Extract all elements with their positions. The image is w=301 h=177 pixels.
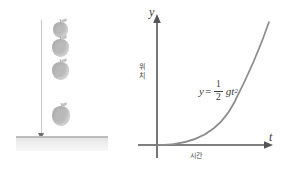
formula-numerator: 1 <box>214 80 223 90</box>
y-axis-arrowhead-icon <box>153 14 161 23</box>
apple-leaf-icon <box>61 35 68 40</box>
apple-leaf-icon <box>60 18 67 23</box>
fall-trajectory-line <box>41 20 42 136</box>
x-axis-label: 시간 <box>190 150 202 160</box>
y-axis-symbol: y <box>149 5 154 20</box>
ground-slab <box>16 138 108 151</box>
apple-icon-2 <box>52 39 69 57</box>
formula-exponent: 2 <box>234 87 238 95</box>
curve-formula-annotation: y = 1 2 gt 2 <box>199 80 238 102</box>
t-axis-symbol: t <box>269 130 272 145</box>
y-axis-label: 위치 <box>137 62 146 80</box>
formula-fraction: 1 2 <box>214 80 223 102</box>
apple-leaf-icon <box>61 102 68 107</box>
physics-free-fall-figure: y t 위치 시간 y = 1 2 gt 2 <box>0 0 301 177</box>
position-time-graph: y t 위치 시간 y = 1 2 gt 2 <box>130 0 301 177</box>
apple-icon-3 <box>52 62 69 80</box>
formula-denominator: 2 <box>214 93 223 103</box>
apple-leaf-icon <box>61 58 68 63</box>
falling-apple-diagram <box>0 0 130 177</box>
formula-lhs: y <box>199 85 204 97</box>
apple-icon-4 <box>52 106 70 126</box>
formula-equals: = <box>205 85 211 97</box>
formula-rhs: gt <box>226 85 235 97</box>
